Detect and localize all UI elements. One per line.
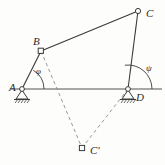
angle-label-psi: ψ	[146, 64, 152, 73]
joint-B	[38, 48, 43, 53]
joint-C	[135, 8, 140, 13]
point-label-C: C	[146, 8, 153, 19]
joint-A	[20, 87, 25, 92]
linkage-diagram-canvas	[0, 0, 165, 165]
point-label-D: D	[136, 92, 144, 103]
linkage-figure: A B C D C' φ ψ	[0, 0, 165, 165]
link-B-Cprime-dashed	[41, 51, 82, 148]
link-B-C	[41, 11, 138, 51]
angle-label-phi: φ	[36, 67, 41, 76]
joint-D	[126, 87, 131, 92]
point-label-C-prime: C'	[90, 145, 100, 156]
link-C-D	[128, 11, 138, 89]
point-label-B: B	[33, 36, 40, 47]
link-D-Cprime-dashed	[82, 89, 128, 148]
joint-Cprime	[79, 145, 84, 150]
point-label-A: A	[9, 82, 16, 93]
